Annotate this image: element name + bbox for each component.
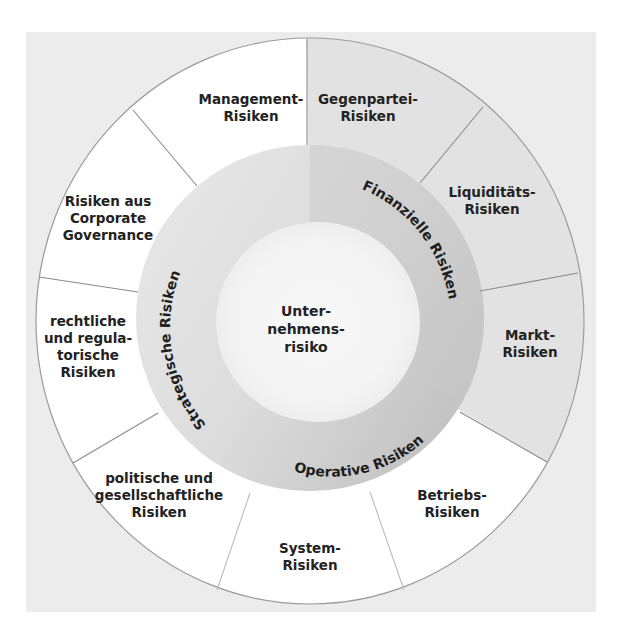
segment-label-line: Risiken [131,504,186,520]
segment-label-line: Corporate [70,210,146,226]
segment-label-line: Risiken [282,557,337,573]
center-label-line: nehmens- [267,321,345,337]
segment-label-line: Betriebs- [417,487,487,503]
segment-betriebs-risiken: Betriebs- Risiken [417,487,487,520]
segment-label-line: Gegenpartei- [318,91,418,107]
segment-label-line: gesellschaftliche [95,487,223,503]
segment-label-line: politische und [105,470,213,486]
segment-label-line: Risiken [464,201,519,217]
segment-system-risiken: System- Risiken [279,540,341,573]
segment-label-line: Risiken [340,108,395,124]
segment-label-line: Risiken [424,504,479,520]
segment-label-line: Markt- [505,327,555,343]
segment-label-line: Liquiditäts- [448,184,535,200]
segment-markt-risiken: Markt- Risiken [502,327,557,360]
center-label-line: Unter- [281,303,331,319]
center-label-line: risiko [284,339,328,355]
segment-label-line: Risiken [223,108,278,124]
segment-label-line: Risiken [502,344,557,360]
segment-label-line: torische [57,347,119,363]
segment-label-line: System- [279,540,341,556]
segment-corporate-governance-risiken: Risiken aus Corporate Governance [63,193,153,243]
segment-label-line: Risiken aus [65,193,152,209]
segment-label-line: Risiken [60,364,115,380]
segment-label-line: Governance [63,227,153,243]
segment-label-line: rechtliche [50,313,126,329]
risk-wheel-diagram: Management- Risiken Risiken aus Corporat… [0,0,621,635]
segment-label-line: Management- [199,91,304,107]
segment-label-line: und regula- [44,330,132,346]
